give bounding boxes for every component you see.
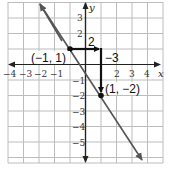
svg-text:−4: −4: [3, 69, 17, 79]
coordinate-plane: x y −4 −3 −2 −1 2 3 4 3 2 −1 −2 −3 −4 −5…: [0, 0, 169, 176]
svg-text:−3: −3: [72, 107, 86, 117]
point-1-neg2: [98, 93, 104, 99]
x-axis-label: x: [158, 68, 164, 79]
svg-text:−4: −4: [72, 122, 86, 132]
svg-text:4: 4: [144, 69, 150, 79]
point-label-neg1-1: (−1, 1): [31, 51, 66, 65]
svg-text:−3: −3: [19, 69, 33, 79]
svg-text:2: 2: [114, 69, 120, 79]
svg-text:−2: −2: [72, 91, 85, 101]
svg-text:3: 3: [77, 13, 83, 23]
svg-text:−1: −1: [72, 76, 85, 86]
rise-label: −3: [105, 51, 119, 65]
svg-text:3: 3: [129, 69, 135, 79]
svg-text:−2: −2: [34, 69, 47, 79]
svg-text:−1: −1: [50, 69, 63, 79]
svg-text:−5: −5: [72, 138, 86, 148]
point-label-1-neg2: (1, −2): [105, 82, 140, 96]
run-label: 2: [88, 35, 95, 49]
y-axis-label: y: [88, 2, 95, 13]
point-neg1-1: [67, 46, 73, 52]
svg-text:2: 2: [77, 29, 83, 39]
